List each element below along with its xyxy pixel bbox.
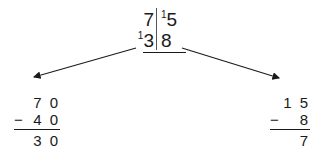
- calculation-left: 7 0 − 4 0 3 0: [14, 94, 60, 146]
- carry-mark-bottom: 1: [138, 30, 144, 41]
- division-top-row: 7 15: [126, 9, 190, 31]
- carry-mark-top: 1: [161, 9, 167, 20]
- minus-sign-right: −: [270, 111, 279, 128]
- division-underline: [143, 52, 186, 53]
- arrow-right: [182, 48, 279, 78]
- calc-left-minuend: 7 0: [14, 94, 60, 111]
- quotient-part-cell: 15: [161, 9, 177, 31]
- calc-left-rule: [14, 129, 60, 130]
- quotient-part-digit: 5: [167, 9, 178, 30]
- calc-right-rule: [270, 129, 310, 130]
- division-bottom-row: 13 8: [126, 30, 190, 52]
- diagram-canvas: 7 15 13 8 7 0 − 4 0 3 0 1 5 − 8 7: [0, 0, 316, 146]
- calc-right-subtraction-line: − 8: [270, 111, 310, 128]
- calculation-right: 1 5 − 8 7: [270, 94, 310, 146]
- dividend-part-digit: 7: [143, 9, 154, 31]
- bottom-left-cell: 13: [138, 30, 154, 52]
- calc-left-subtraction-line: − 4 0: [14, 111, 60, 128]
- calc-right-minuend: 1 5: [270, 94, 310, 111]
- bottom-left-digit: 3: [143, 30, 154, 51]
- calc-right-result: 7: [270, 132, 310, 146]
- division-bracket: 7 15 13 8: [126, 8, 190, 54]
- calc-right-subtrahend: 8: [300, 111, 310, 128]
- arrow-left: [34, 48, 136, 77]
- bottom-right-digit: 8: [161, 30, 172, 52]
- calc-left-subtrahend: 4 0: [33, 111, 60, 128]
- minus-sign-left: −: [14, 111, 23, 128]
- calc-left-result: 3 0: [14, 132, 60, 146]
